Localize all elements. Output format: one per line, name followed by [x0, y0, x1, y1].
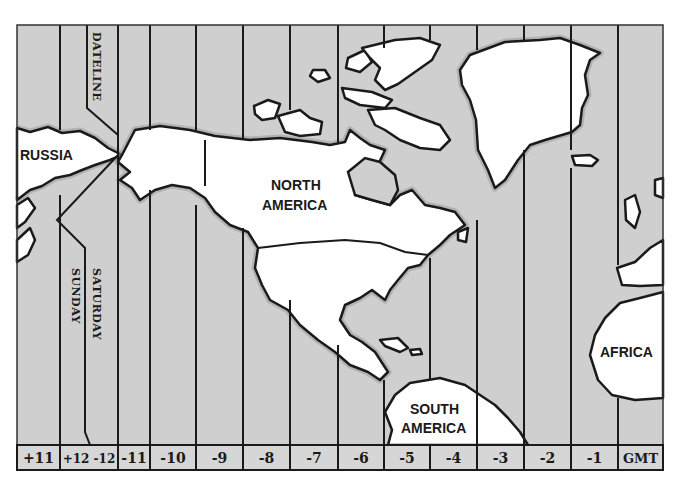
dateline-label: DATELINE — [90, 32, 103, 101]
zone-label: -3 — [493, 450, 509, 466]
zone-label: GMT — [623, 451, 658, 466]
zone-label: -10 — [160, 450, 186, 466]
time-zone-map: DATELINE SATURDAY SUNDAY RUSSIA NORTH AM… — [0, 0, 677, 495]
zone-label-row: +11 +12 -12 -11 -10 -9 -8 -7 -6 -5 -4 -3… — [17, 445, 663, 470]
zone-label: -11 — [121, 450, 146, 466]
north-america-label-line1: NORTH — [271, 177, 321, 193]
zone-label: -2 — [540, 450, 556, 466]
zone-label: +12 -12 — [63, 452, 116, 466]
zone-label: -1 — [587, 450, 603, 466]
sunday-label: SUNDAY — [69, 268, 82, 324]
saturday-label: SATURDAY — [90, 268, 103, 340]
zone-label: -7 — [306, 450, 322, 466]
africa-label: AFRICA — [600, 344, 653, 360]
zone-label: -4 — [446, 450, 462, 466]
zone-label: -9 — [212, 450, 228, 466]
zone-label: -8 — [259, 450, 275, 466]
south-america-label-line1: SOUTH — [410, 401, 459, 417]
zone-label: -6 — [353, 450, 369, 466]
zone-label: +11 — [23, 450, 54, 466]
north-america-label-line2: AMERICA — [262, 197, 327, 213]
russia-label: RUSSIA — [20, 147, 73, 163]
zone-label: -5 — [399, 450, 415, 466]
south-america-label-line2: AMERICA — [401, 420, 466, 436]
